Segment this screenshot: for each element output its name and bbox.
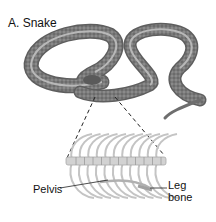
leg-bone-label-line1: Leg xyxy=(168,179,192,191)
spine xyxy=(66,157,166,165)
figure-title: A. Snake xyxy=(8,17,57,29)
pelvis-label: Pelvis xyxy=(33,183,62,195)
snake-body xyxy=(31,29,200,118)
leg-bone-label: Leg bone xyxy=(168,179,192,203)
snake-diagram: A. Snake Pelvis Leg bone xyxy=(0,0,216,222)
leg-bone-label-line2: bone xyxy=(168,191,192,203)
snake-head xyxy=(83,75,101,85)
